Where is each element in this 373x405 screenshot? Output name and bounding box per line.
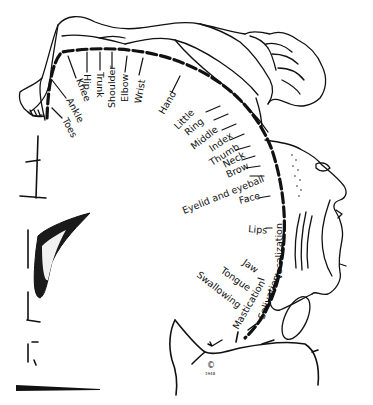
label-vocalization: Vocalization [273,223,284,280]
face-stipple [291,154,302,197]
label-wrist: Wrist [132,78,147,104]
brain-outline [170,320,319,395]
copyright-symbol: © [207,361,215,370]
label-elbow: Elbow [119,74,130,102]
label-hip: Hip [82,74,93,90]
label-jaw: Jaw [240,256,261,275]
label-lips: Lips [248,223,268,236]
scale-bar [16,385,100,391]
labels: Toes Ankle Knee Hip Trunk Shoulder Elbow… [60,66,284,331]
tongue-drawing [276,293,315,344]
copyright-year: 1948 [205,371,216,376]
label-hand: Hand [156,89,178,116]
diagram-canvas: Toes Ankle Knee Hip Trunk Shoulder Elbow… [0,0,373,405]
label-shoulder: Shoulder [106,66,117,108]
body-figure-drawing [19,17,325,132]
copyright-mark: © 1948 [205,361,216,376]
label-trunk: Trunk [95,71,106,98]
motor-homunculus-diagram: Toes Ankle Knee Hip Trunk Shoulder Elbow… [0,0,373,405]
